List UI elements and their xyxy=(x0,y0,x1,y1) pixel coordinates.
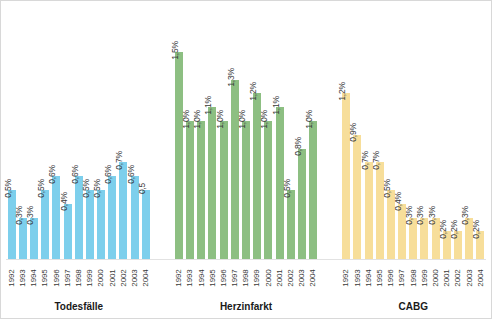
bar-value-label: 0,6% xyxy=(104,165,113,184)
x-tick-label: 1998 xyxy=(409,269,417,286)
bar[interactable]: 0,7% xyxy=(376,162,384,259)
x-tick-label: 1996 xyxy=(387,269,395,286)
group-title-cabg: CABG xyxy=(398,301,427,312)
bar[interactable]: 1,2% xyxy=(342,93,350,259)
tick-slot: 1995 xyxy=(207,260,218,294)
bar[interactable]: 0,8% xyxy=(298,149,306,259)
bar[interactable]: 0,6% xyxy=(108,176,116,259)
bar-slot: 1,0% xyxy=(263,6,274,259)
bar-value-label: 0,3% xyxy=(25,206,34,225)
bar-slot: 1,2% xyxy=(252,6,263,259)
x-tick-label: 2003 xyxy=(298,269,306,286)
bar[interactable]: 1,0% xyxy=(309,121,317,259)
bar[interactable]: 0,5% xyxy=(86,190,94,259)
bar-value-label: 1,5% xyxy=(170,41,179,60)
group-title-wrap: Todesfälle xyxy=(6,297,152,315)
x-tick-label: 1992 xyxy=(175,269,183,286)
bar[interactable]: 1,5% xyxy=(175,52,183,259)
bar-value-label: 1,0% xyxy=(193,110,202,129)
tick-slot: 1993 xyxy=(184,260,195,294)
x-tick-label: 1992 xyxy=(8,269,16,286)
tick-slot: 2003 xyxy=(464,260,475,294)
tick-slot: 1992 xyxy=(173,260,184,294)
bar-value-label: 0,7% xyxy=(371,151,380,170)
bar[interactable]: 0,5% xyxy=(41,190,49,259)
tick-slot: 1993 xyxy=(352,260,363,294)
tick-slot: 1997 xyxy=(229,260,240,294)
bar-value-label: 0,6% xyxy=(48,165,57,184)
bar-value-label: 0,2% xyxy=(438,220,447,239)
tick-slot: 1997 xyxy=(62,260,73,294)
bar-value-label: 0,3% xyxy=(416,206,425,225)
bar-value-label: 0,3% xyxy=(405,206,414,225)
x-tick-label: 2004 xyxy=(142,269,150,286)
bar-slot: 1,0% xyxy=(308,6,319,259)
bar-value-label: 1,0% xyxy=(238,110,247,129)
tick-slot: 2004 xyxy=(308,260,319,294)
bar[interactable]: 1,1% xyxy=(208,107,216,259)
x-tick-label: 2000 xyxy=(264,269,272,286)
tick-slot: 1995 xyxy=(374,260,385,294)
group-title-wrap: CABG xyxy=(340,297,486,315)
x-tick-label: 1995 xyxy=(376,269,384,286)
x-tick-label: 2001 xyxy=(276,269,284,286)
x-axis-tick-labels: 1992199319941995199619971998199920002001… xyxy=(6,260,486,294)
bar[interactable]: 0,2% xyxy=(454,231,462,259)
x-tick-label: 2001 xyxy=(108,269,116,286)
bar-value-label: 0,3% xyxy=(427,206,436,225)
bar-slot: 1,1% xyxy=(207,6,218,259)
x-tick-label: 2003 xyxy=(131,269,139,286)
tick-slot: 1997 xyxy=(397,260,408,294)
x-tick-label: 1994 xyxy=(30,269,38,286)
tick-slot: 1993 xyxy=(17,260,28,294)
x-tick-label: 2004 xyxy=(309,269,317,286)
bar-slot: 0,7% xyxy=(363,6,374,259)
bar[interactable]: 0,5% xyxy=(287,190,295,259)
bar[interactable]: 1,0% xyxy=(186,121,194,259)
tick-slot: 2000 xyxy=(96,260,107,294)
bar-slot: 0,9% xyxy=(352,6,363,259)
bar-slot: 0,5% xyxy=(385,6,396,259)
tick-slot: 2001 xyxy=(441,260,452,294)
bar[interactable]: 0,5 xyxy=(142,190,150,259)
bar[interactable]: 1,3% xyxy=(231,80,239,259)
bar-value-label: 0,2% xyxy=(450,220,459,239)
bar-slot: 0,6% xyxy=(73,6,84,259)
bar-value-label: 0,2% xyxy=(472,220,481,239)
tick-slot: 1996 xyxy=(385,260,396,294)
bar-slot: 0,5% xyxy=(96,6,107,259)
bar-slot: 1,0% xyxy=(240,6,251,259)
bar[interactable]: 0,4% xyxy=(64,204,72,259)
x-tick-label: 1993 xyxy=(19,269,27,286)
x-tick-label: 2004 xyxy=(476,269,484,286)
bar[interactable]: 0,6% xyxy=(52,176,60,259)
bar[interactable]: 0,3% xyxy=(30,218,38,259)
bar-slot: 0,6% xyxy=(51,6,62,259)
bar[interactable]: 0,7% xyxy=(365,162,373,259)
x-tick-label: 1994 xyxy=(197,269,205,286)
group-title-wrap: Herzinfarkt xyxy=(173,297,319,315)
group-title-herzinfarkt: Herzinfarkt xyxy=(220,301,272,312)
tick-slot: 1994 xyxy=(28,260,39,294)
bar[interactable]: 1,0% xyxy=(197,121,205,259)
bar[interactable]: 0,5% xyxy=(97,190,105,259)
x-tick-label: 1993 xyxy=(353,269,361,286)
tick-slot: 1992 xyxy=(341,260,352,294)
bar-slot: 1,5% xyxy=(173,6,184,259)
x-tick-label: 1993 xyxy=(186,269,194,286)
plot-area: 0,5%0,3%0,3%0,5%0,6%0,4%0,6%0,5%0,5%0,6%… xyxy=(6,6,486,259)
bar[interactable]: 1,0% xyxy=(242,121,250,259)
bar-value-label: 0,5% xyxy=(382,179,391,198)
x-tick-label: 2001 xyxy=(443,269,451,286)
bar[interactable]: 1,0% xyxy=(220,121,228,259)
x-tick-label: 2002 xyxy=(287,269,295,286)
bar[interactable]: 0,2% xyxy=(476,231,484,259)
tick-slot: 2000 xyxy=(263,260,274,294)
bar-value-label: 1,1% xyxy=(271,96,280,115)
x-tick-label: 1999 xyxy=(253,269,261,286)
bar[interactable]: 1,0% xyxy=(264,121,272,259)
bar-value-label: 0,5 xyxy=(137,182,146,193)
x-tick-label: 1998 xyxy=(242,269,250,286)
tick-slot: 1998 xyxy=(240,260,251,294)
x-tick-label: 2000 xyxy=(432,269,440,286)
